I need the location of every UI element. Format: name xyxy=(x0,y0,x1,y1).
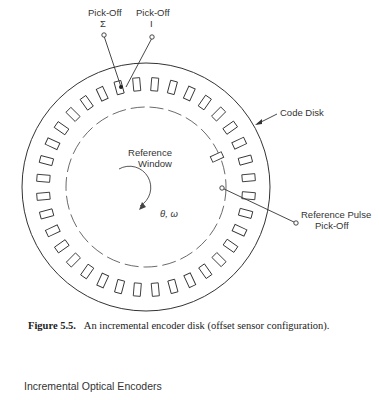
encoder-slot xyxy=(212,107,226,121)
encoder-slot xyxy=(212,253,226,267)
encoder-slot xyxy=(167,80,177,94)
figure-caption: Figure 5.5. An incremental encoder disk … xyxy=(28,320,329,331)
pickoff-sigma-label: Pick-Off xyxy=(88,7,122,18)
reference-pulse-terminal-inner xyxy=(220,186,224,190)
reference-window-label: Reference xyxy=(128,147,172,158)
encoder-slot xyxy=(133,78,141,92)
encoder-slot xyxy=(223,239,238,252)
encoder-slot xyxy=(242,174,256,182)
pickoff-one-label: Pick-Off xyxy=(136,7,170,18)
encoder-slot xyxy=(81,264,94,279)
encoder-slot xyxy=(151,78,159,92)
pickoff-one-symbol: I xyxy=(150,18,153,29)
encoder-slot xyxy=(97,273,109,288)
section-title: Incremental Optical Encoders xyxy=(24,380,162,392)
figure-caption-text: An incremental encoder disk (offset sens… xyxy=(84,320,330,331)
encoder-slot xyxy=(54,122,69,135)
encoder-slot xyxy=(238,208,252,218)
figure-caption-label: Figure 5.5. xyxy=(28,320,76,331)
pickoff-sigma-symbol: Σ xyxy=(100,18,106,29)
encoder-slot xyxy=(232,137,247,149)
encoder-slot xyxy=(115,279,125,293)
encoder-slot xyxy=(45,225,60,237)
encoder-slot xyxy=(66,107,80,121)
rotation-arrow xyxy=(119,166,151,206)
encoder-slot xyxy=(66,253,80,267)
code-disk-label: Code Disk xyxy=(280,107,324,118)
encoder-slot xyxy=(151,283,159,297)
reference-track-dashed xyxy=(66,107,226,267)
encoder-slot xyxy=(198,95,211,110)
encoder-slot xyxy=(184,273,196,288)
pickoff-one-terminal xyxy=(150,35,154,39)
code-disk-arrow-head xyxy=(255,119,262,125)
encoder-slot xyxy=(37,192,51,200)
pickoff-sigma-lead xyxy=(104,36,121,87)
code-disk-outline xyxy=(22,63,270,311)
encoder-slot xyxy=(238,155,252,165)
encoder-slot xyxy=(232,224,247,236)
encoder-slot xyxy=(168,279,178,293)
encoder-slot xyxy=(183,86,195,101)
encoder-slot xyxy=(199,264,212,279)
encoder-slot xyxy=(37,174,51,182)
encoder-slot xyxy=(39,156,53,166)
pickoff-sigma-terminal xyxy=(102,33,106,37)
reference-pulse-label-2: Pick-Off xyxy=(315,220,349,231)
reference-pulse-label: Reference Pulse xyxy=(301,209,371,220)
encoder-slot xyxy=(96,86,108,101)
encoder-slot xyxy=(54,240,69,253)
pickoff-sensor-dot xyxy=(119,85,123,89)
encoder-slot xyxy=(39,209,53,219)
encoder-disk-figure: Pick-Off Σ Pick-Off I Code Disk Referenc… xyxy=(0,0,379,320)
reference-pulse-terminal-outer xyxy=(294,221,298,225)
rotation-label: θ, ω xyxy=(160,208,178,219)
reference-window-label-2: Window xyxy=(138,158,172,169)
encoder-slot xyxy=(133,283,141,297)
encoder-slot xyxy=(223,121,238,134)
encoder-slot xyxy=(45,138,60,150)
reference-pulse-lead xyxy=(222,188,296,223)
encoder-slot xyxy=(80,95,93,110)
